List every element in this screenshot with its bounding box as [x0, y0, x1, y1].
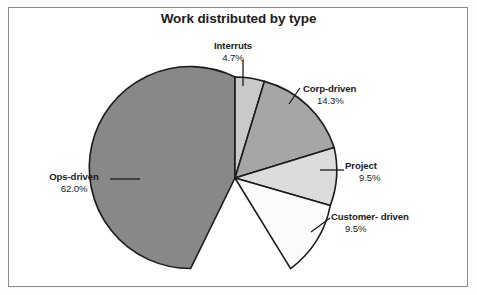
pie-label-corp-driven-name: Corp-driven: [303, 83, 356, 95]
pie-label-customer-driven: Customer- driven 9.5%: [331, 211, 409, 234]
pie-label-corp-driven-value: 14.3%: [303, 95, 356, 107]
pie-label-corp-driven: Corp-driven 14.3%: [303, 83, 356, 106]
pie-label-project-name: Project: [345, 160, 380, 172]
pie-label-ops-driven: Ops-driven 62.0%: [32, 171, 116, 194]
pie-label-customer-driven-value: 9.5%: [331, 223, 409, 235]
pie-slice-ops-driven[interactable]: [89, 67, 235, 269]
chart-figure: Work distributed by type Interruts 4.7% …: [0, 0, 477, 295]
pie-label-project: Project 9.5%: [345, 160, 380, 183]
pie-label-ops-driven-value: 62.0%: [32, 183, 116, 195]
pie-label-project-value: 9.5%: [345, 172, 380, 184]
pie-label-interruts: Interruts 4.7%: [214, 40, 252, 63]
pie-label-interruts-value: 4.7%: [214, 52, 252, 64]
pie-label-interruts-name: Interruts: [214, 40, 252, 52]
pie-label-ops-driven-name: Ops-driven: [32, 171, 116, 183]
pie-label-customer-driven-name: Customer- driven: [331, 211, 409, 223]
